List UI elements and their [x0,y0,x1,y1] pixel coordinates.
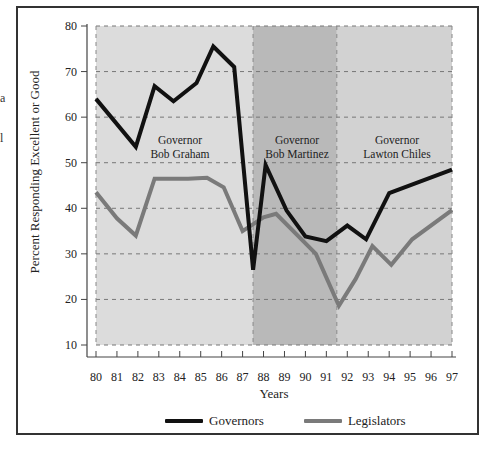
region-label: Bob Martinez [265,148,329,160]
y-tick-label: 70 [65,65,77,79]
legend-label-legislators: Legislators [348,413,406,429]
y-tick-label: 80 [65,19,77,33]
x-tick-label: 92 [341,370,353,384]
x-axis-label: Years [259,386,288,402]
y-tick-label: 50 [65,156,77,170]
x-tick-label: 82 [132,370,144,384]
x-tick-label: 93 [362,370,374,384]
legend: Governors Legislators [165,413,446,429]
y-axis-label: Percent Responding Excellent or Good [27,71,43,274]
x-tick-label: 88 [258,370,270,384]
y-tick-label: 20 [65,292,77,306]
legend-item-legislators: Legislators [304,413,406,429]
x-tick-label: 91 [320,370,332,384]
legend-label-governors: Governors [209,413,264,429]
x-tick-label: 80 [90,370,102,384]
x-tick-label: 94 [383,370,395,384]
x-tick-label: 86 [216,370,228,384]
region-label: Lawton Chiles [363,148,431,160]
y-tick-label: 10 [65,338,77,352]
x-tick-label: 81 [111,370,123,384]
region-band [96,26,253,345]
x-tick-label: 96 [425,370,437,384]
region-band [337,26,452,345]
x-tick-label: 84 [174,370,186,384]
governors-swatch-icon [165,419,203,423]
x-tick-label: 90 [299,370,311,384]
region-label: Governor [375,134,419,146]
region-label: Governor [275,134,319,146]
legend-item-governors: Governors [165,413,264,429]
y-tick-label: 30 [65,247,77,261]
y-tick-label: 40 [65,201,77,215]
legislators-swatch-icon [304,419,342,423]
x-tick-label: 97 [446,370,458,384]
y-tick-label: 60 [65,110,77,124]
x-tick-label: 83 [153,370,165,384]
region-label: Bob Graham [150,148,209,160]
region-band [253,26,337,345]
x-tick-label: 85 [195,370,207,384]
x-tick-label: 89 [278,370,290,384]
x-tick-label: 95 [404,370,416,384]
x-tick-label: 87 [237,370,249,384]
region-label: Governor [158,134,202,146]
line-chart: 1020304050607080808182838485868788899091… [0,0,490,454]
